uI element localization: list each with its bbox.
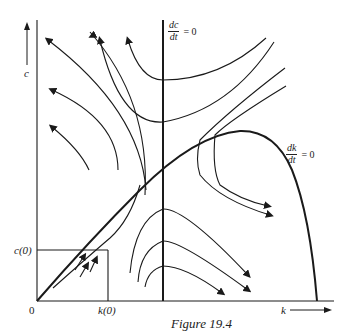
k-axis-label: k — [281, 305, 286, 316]
dc-dt-nullcline-label: dcdt = 0 — [168, 20, 197, 42]
k0-label: k(0) — [98, 305, 116, 316]
origin-label: 0 — [29, 305, 35, 316]
dk-dt-nullcline-label: dkdt = 0 — [286, 143, 315, 165]
dk-dt-nullcline — [37, 131, 317, 301]
c-axis-label: c — [24, 68, 29, 79]
c0-label: c(0) — [14, 245, 32, 256]
figure-caption: Figure 19.4 — [171, 316, 232, 332]
phase-diagram — [0, 0, 354, 336]
